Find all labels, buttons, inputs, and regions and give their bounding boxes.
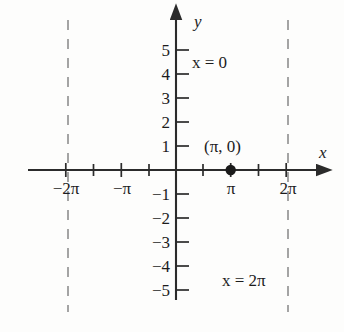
y-tick-label-3: 3 [136,90,170,107]
annotation-x-equals-zero: x = 0 [192,54,227,71]
x-tick-label-neg-pi: −π [96,180,148,197]
x-axis-label: x [319,144,327,161]
y-tick-label-neg-3: −3 [136,234,170,251]
coordinate-plane-svg [0,0,344,332]
x-tick-label-two-pi: 2π [262,180,314,197]
y-tick-label-2: 2 [136,114,170,131]
y-tick-label-neg-4: −4 [136,258,170,275]
y-tick-label-neg-5: −5 [136,282,170,299]
x-tick-label-pi: π [212,180,250,197]
y-tick-label-1: 1 [136,138,170,155]
data-point-pi-zero [226,165,236,175]
graph-figure: y x 5 4 3 2 1 −1 −2 −3 −4 −5 −2π −π π 2π… [0,0,344,332]
y-tick-label-4: 4 [136,66,170,83]
y-tick-label-neg-2: −2 [136,210,170,227]
y-axis-label: y [194,13,202,30]
x-tick-label-neg-two-pi: −2π [40,180,92,197]
y-tick-label-5: 5 [136,42,170,59]
annotation-x-equals-two-pi: x = 2π [222,272,266,289]
point-label-pi-zero: (π, 0) [204,138,241,155]
